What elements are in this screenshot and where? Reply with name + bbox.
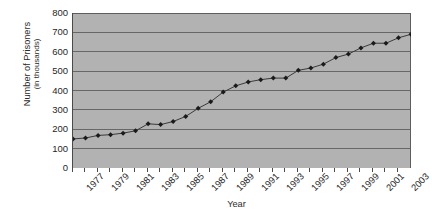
data-point-marker	[158, 122, 163, 127]
data-point-marker	[246, 79, 251, 84]
x-tick-label: 1993	[285, 172, 306, 193]
data-point-marker	[346, 52, 351, 57]
data-point-marker	[83, 135, 88, 140]
x-tick-label: 1991	[260, 172, 281, 193]
plot-canvas	[73, 13, 411, 168]
data-point-marker	[321, 62, 326, 67]
data-point-marker	[358, 45, 363, 50]
y-tick-label: 400	[42, 86, 68, 96]
data-point-marker	[383, 41, 388, 46]
x-tick-label: 1985	[185, 172, 206, 193]
y-tick-label: 100	[42, 144, 68, 154]
x-tick-label: 1995	[310, 172, 331, 193]
data-point-marker	[96, 133, 101, 138]
x-tick-label: 2003	[411, 172, 432, 193]
x-axis-tickmarks	[72, 168, 410, 174]
y-tick-label: 600	[42, 47, 68, 57]
data-point-marker	[333, 55, 338, 60]
data-point-marker	[258, 77, 263, 82]
data-point-marker	[396, 35, 401, 40]
data-point-marker	[296, 68, 301, 73]
data-point-marker	[308, 66, 313, 71]
x-tick-label: 1999	[360, 172, 381, 193]
data-point-marker	[108, 132, 113, 137]
data-point-marker	[121, 131, 126, 136]
y-axis-title-line1: Number of Prisoners	[23, 22, 32, 106]
x-tick-label: 1987	[210, 172, 231, 193]
x-axis-title: Year	[0, 199, 421, 209]
x-tick-label: 1997	[335, 172, 356, 193]
x-tick-label: 1981	[135, 172, 156, 193]
x-tick-label: 1983	[160, 172, 181, 193]
y-tick-label: 500	[42, 66, 68, 76]
x-tick-label: 2001	[385, 172, 406, 193]
y-tick-label: 200	[42, 124, 68, 134]
data-point-marker	[183, 114, 188, 119]
y-tick-label: 700	[42, 27, 68, 37]
x-tick-label: 1989	[235, 172, 256, 193]
series-line	[73, 34, 411, 139]
data-point-marker	[271, 76, 276, 81]
x-tick-label: 1979	[110, 172, 131, 193]
data-point-marker	[146, 121, 151, 126]
data-point-marker	[371, 41, 376, 46]
data-point-marker	[171, 119, 176, 124]
data-point-marker	[233, 83, 238, 88]
data-point-marker	[73, 136, 76, 141]
data-point-marker	[283, 76, 288, 81]
y-tick-label: 800	[42, 8, 68, 18]
plot-area	[72, 13, 411, 168]
x-tick-label: 1977	[85, 172, 106, 193]
y-tick-label: 300	[42, 105, 68, 115]
